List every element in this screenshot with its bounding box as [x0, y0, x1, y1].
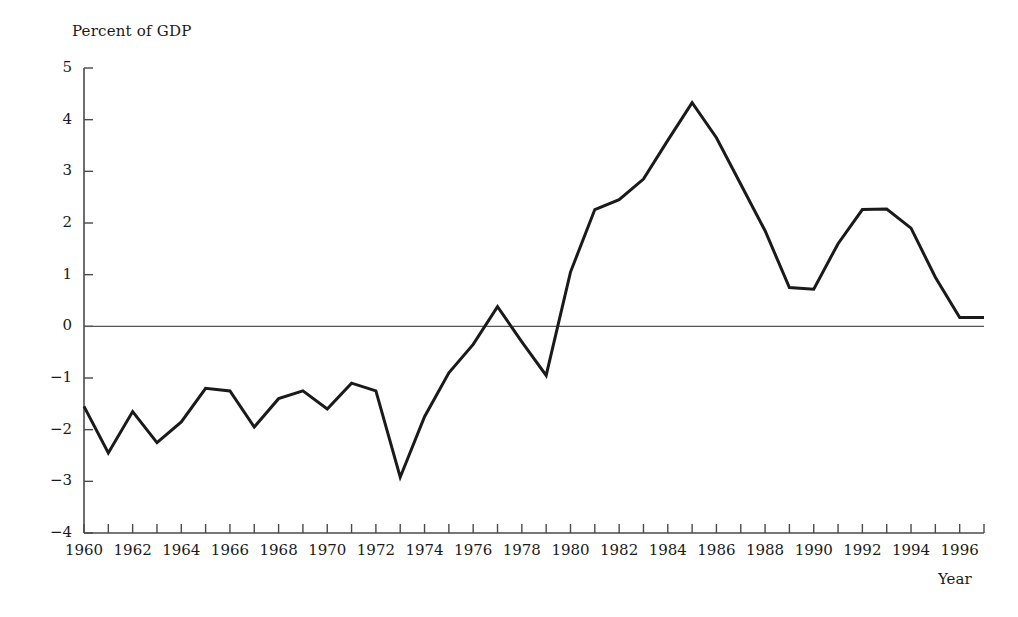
x-tick-label: 1974: [397, 541, 453, 559]
x-axis-title: Year: [938, 570, 972, 588]
x-tick-label: 1968: [251, 541, 307, 559]
x-tick-label: 1988: [737, 541, 793, 559]
x-tick-label: 1964: [153, 541, 209, 559]
x-tick-label: 1966: [202, 541, 258, 559]
x-tick-label: 1982: [591, 541, 647, 559]
chart-figure: Percent of GDP 543210−1−2−3−4 1960196219…: [0, 0, 1018, 617]
x-tick-label: 1986: [688, 541, 744, 559]
y-tick-label: 2: [32, 213, 72, 231]
x-tick-label: 1990: [786, 541, 842, 559]
data-series-group: [84, 103, 984, 478]
x-tick-label: 1962: [105, 541, 161, 559]
x-tick-label: 1970: [299, 541, 355, 559]
x-tick-label: 1984: [640, 541, 696, 559]
x-tick-label: 1972: [348, 541, 404, 559]
line-chart-plot: [0, 0, 1018, 617]
y-tick-label: 1: [32, 265, 72, 283]
x-tick-label: 1960: [56, 541, 112, 559]
axes-group: [84, 68, 984, 533]
x-tick-label: 1976: [445, 541, 501, 559]
x-tick-label: 1980: [542, 541, 598, 559]
series-line-0: [84, 103, 984, 478]
y-tick-label: 4: [32, 110, 72, 128]
x-tick-label: 1996: [932, 541, 988, 559]
y-tick-label: 0: [32, 316, 72, 334]
y-tick-label: 5: [32, 58, 72, 76]
x-tick-label: 1992: [834, 541, 890, 559]
y-tick-label: −3: [32, 471, 72, 489]
x-tick-label: 1994: [883, 541, 939, 559]
y-tick-label: −4: [32, 523, 72, 541]
y-tick-label: 3: [32, 161, 72, 179]
y-tick-label: −2: [32, 420, 72, 438]
y-tick-label: −1: [32, 368, 72, 386]
x-tick-label: 1978: [494, 541, 550, 559]
